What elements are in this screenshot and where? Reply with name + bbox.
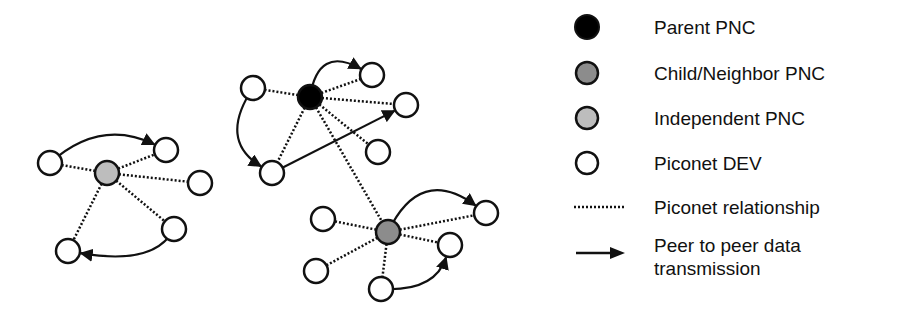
piconet-dev-node [162, 217, 186, 241]
piconet-diagram [0, 0, 560, 319]
piconet-relationship-line [310, 97, 406, 105]
piconet-dev-node [56, 239, 80, 263]
data-transmission-arrow [50, 135, 154, 163]
piconet-dev-node [369, 277, 393, 301]
piconet-relationship-line [388, 213, 486, 232]
legend-label: Piconet relationship [654, 196, 820, 219]
piconet-dev-node [474, 201, 498, 225]
piconet-dev-node [260, 161, 284, 185]
piconet-relationship-line [107, 173, 200, 183]
legend-label: Child/Neighbor PNC [654, 62, 825, 85]
legend-item-piconet-relationship: Piconet relationship [574, 192, 630, 222]
legend-label: Parent PNC [654, 16, 755, 39]
child-neighbor-pnc-icon [574, 58, 630, 88]
legend-label: Independent PNC [654, 107, 805, 130]
legend-label: Peer to peer data transmission [654, 234, 894, 280]
piconet-dev-node [304, 259, 328, 283]
piconet-dev-node [154, 138, 178, 162]
piconet-dev-node [394, 93, 418, 117]
piconet-dev-node [311, 207, 335, 231]
independent-pnc-node [95, 161, 119, 185]
parent-pnc-icon [574, 12, 630, 42]
piconet-dev-icon [574, 148, 630, 178]
legend-item-peer-transmission: Peer to peer data transmission [574, 238, 630, 268]
piconet-dev-node [438, 233, 462, 257]
piconet-dev-node [38, 151, 62, 175]
independent-pnc-icon [574, 103, 630, 133]
piconet-dev-node [360, 63, 384, 87]
dotted-line-icon [574, 192, 630, 222]
child-neighbor-pnc-node [376, 220, 400, 244]
arrow-icon [574, 238, 630, 268]
legend-item-independent-pnc: Independent PNC [574, 103, 630, 133]
legend-label: Piconet DEV [654, 152, 762, 175]
piconet-dev-node [188, 171, 212, 195]
legend-item-parent-pnc: Parent PNC [574, 12, 630, 42]
parent-pnc-node [298, 85, 322, 109]
data-transmission-arrow [388, 190, 475, 232]
legend-item-child-neighbor-pnc: Child/Neighbor PNC [574, 58, 630, 88]
piconet-dev-node [366, 140, 390, 164]
piconet-dev-node [241, 76, 265, 100]
network-nodes [38, 63, 498, 301]
data-transmission-arrow [81, 229, 174, 256]
legend-item-piconet-dev: Piconet DEV [574, 148, 630, 178]
